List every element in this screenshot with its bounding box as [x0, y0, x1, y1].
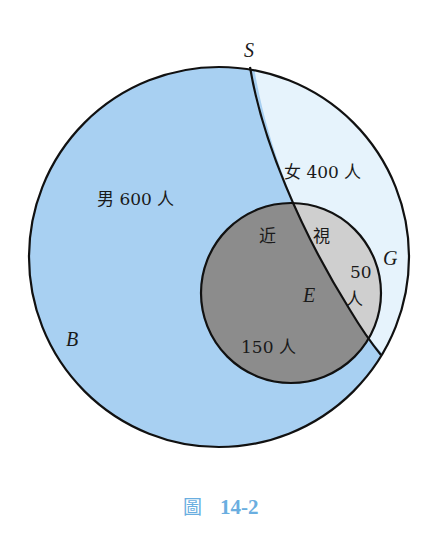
set-label-g: G [383, 247, 398, 269]
caption-prefix: 圖 [183, 496, 202, 518]
girls-myopia-unit: 人 [346, 289, 363, 309]
set-label-s: S [244, 39, 254, 61]
myopia-label-left: 近 [259, 226, 276, 246]
myopia-label-right: 視 [313, 226, 330, 246]
girls-myopia-count: 50 [350, 262, 372, 282]
venn-diagram: S B G E 男 600 人 女 400 人 近 視 50 人 150 人 圖… [0, 0, 436, 541]
set-label-e: E [302, 284, 315, 306]
set-label-b: B [66, 328, 78, 350]
boys-label: 男 600 人 [97, 189, 174, 209]
girls-label: 女 400 人 [284, 162, 361, 182]
boys-myopia-label: 150 人 [241, 337, 296, 357]
caption-number: 14-2 [220, 495, 259, 519]
